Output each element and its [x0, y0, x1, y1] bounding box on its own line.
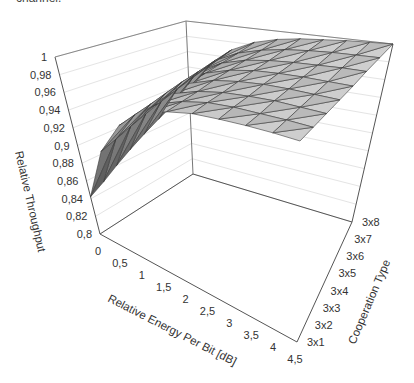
- y-tick-label: 3x1: [307, 336, 325, 348]
- z-tick-label: 0,82: [66, 210, 87, 222]
- z-tick-label: 0,8: [77, 228, 92, 240]
- x-tick-label: 4: [270, 341, 276, 353]
- gridline: [100, 174, 352, 234]
- gridline: [96, 159, 357, 217]
- y-axis-ticks: 3x13x23x33x43x53x63x73x8: [307, 216, 380, 348]
- surface-chart: 0,80,820,840,860,880,90,920,940,960,981 …: [0, 0, 414, 383]
- x-tick-label: 1: [139, 269, 145, 281]
- z-tick-label: 0,94: [39, 104, 60, 116]
- gridline: [91, 143, 360, 198]
- x-tick-label: 2: [182, 293, 188, 305]
- y-tick-label: 3x6: [346, 250, 364, 262]
- x-tick-label: 3: [226, 317, 232, 329]
- x-axis-label: Relative Energy Per Bit [dB]: [106, 292, 238, 367]
- z-tick-label: 1: [41, 51, 47, 63]
- x-tick-label: 2,5: [200, 305, 215, 317]
- z-tick-label: 0,9: [54, 140, 69, 152]
- z-tick-label: 0,88: [53, 157, 74, 169]
- x-tick-label: 3,5: [244, 329, 259, 341]
- x-tick-label: 4,5: [287, 353, 302, 365]
- z-axis-label: Relative Throughput: [13, 150, 48, 254]
- y-tick-label: 3x3: [323, 302, 341, 314]
- y-tick-label: 3x4: [331, 285, 349, 297]
- y-tick-label: 3x2: [315, 319, 333, 331]
- surface-plot: [91, 39, 393, 197]
- z-tick-label: 0,98: [30, 69, 51, 81]
- x-axis-line: [100, 234, 297, 342]
- x-tick-label: 0: [95, 245, 101, 257]
- y-tick-label: 3x7: [354, 233, 372, 245]
- z-tick-label: 0,84: [62, 193, 83, 205]
- z-tick-label: 0,86: [57, 175, 78, 187]
- y-tick-label: 3x8: [362, 216, 380, 228]
- x-tick-label: 1,5: [156, 281, 171, 293]
- z-tick-label: 0,92: [44, 122, 65, 134]
- y-tick-label: 3x5: [338, 267, 356, 279]
- z-tick-label: 0,96: [35, 86, 56, 98]
- x-tick-label: 0,5: [112, 257, 127, 269]
